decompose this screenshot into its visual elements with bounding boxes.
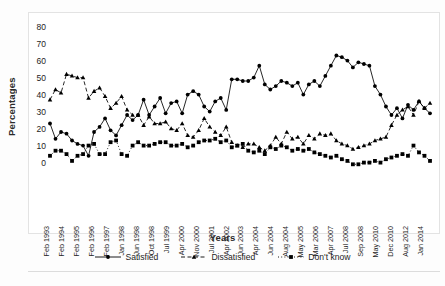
marker-circle	[401, 117, 405, 121]
marker-circle	[81, 144, 85, 148]
marker-square	[263, 152, 267, 156]
marker-square	[92, 142, 96, 146]
marker-square	[197, 140, 201, 144]
legend-item-dissatisfied[interactable]: Dissatisfied	[180, 252, 255, 262]
marker-square	[340, 157, 344, 161]
marker-square	[76, 154, 80, 158]
marker-square	[219, 140, 223, 144]
marker-circle	[87, 154, 91, 158]
marker-circle	[246, 79, 250, 83]
marker-circle	[197, 93, 201, 97]
marker-triangle	[108, 106, 113, 110]
marker-triangle	[367, 142, 372, 146]
marker-square	[246, 149, 250, 153]
marker-square	[252, 151, 256, 155]
marker-square	[87, 144, 91, 148]
marker-square	[213, 137, 217, 141]
marker-triangle	[196, 128, 201, 132]
marker-triangle	[318, 131, 323, 135]
marker-circle	[230, 77, 234, 81]
y-axis-label: Percentages	[2, 52, 20, 162]
marker-square	[230, 145, 234, 149]
marker-circle	[268, 88, 272, 92]
marker-triangle	[169, 126, 174, 130]
x-axis-label: Years	[0, 232, 445, 243]
marker-square	[208, 139, 212, 143]
marker-circle	[285, 81, 289, 85]
marker-square	[125, 154, 129, 158]
marker-circle	[191, 89, 195, 93]
marker-square	[334, 154, 338, 158]
marker-circle	[312, 79, 316, 83]
marker-square	[362, 161, 366, 165]
marker-triangle	[384, 135, 389, 139]
marker-circle	[263, 83, 267, 87]
marker-square	[417, 151, 421, 155]
legend-item-satisfied[interactable]: Satisfied	[94, 252, 158, 262]
marker-circle	[323, 74, 327, 78]
y-tick-20: 20	[24, 125, 46, 133]
marker-square	[357, 162, 361, 166]
marker-square	[428, 159, 432, 163]
marker-circle	[290, 84, 294, 88]
legend-item-don-t-know[interactable]: Don't know	[277, 252, 350, 262]
marker-square	[158, 140, 162, 144]
marker-circle	[158, 96, 162, 100]
marker-square	[390, 156, 394, 160]
marker-circle	[373, 84, 377, 88]
marker-circle	[252, 76, 256, 80]
marker-circle	[296, 81, 300, 85]
marker-square	[345, 159, 349, 163]
marker-square	[202, 139, 206, 143]
legend-swatch-triangle	[180, 252, 208, 262]
marker-square	[120, 152, 124, 156]
marker-circle	[384, 105, 388, 109]
marker-triangle	[307, 133, 312, 137]
marker-square	[191, 144, 195, 148]
marker-triangle	[351, 147, 356, 151]
marker-circle	[379, 93, 383, 97]
marker-circle	[109, 128, 113, 132]
marker-square	[395, 154, 399, 158]
marker-circle	[274, 84, 278, 88]
marker-triangle	[213, 130, 218, 134]
chart-legend: SatisfiedDissatisfiedDon't know	[0, 252, 445, 262]
marker-circle	[213, 100, 217, 104]
marker-circle	[362, 62, 366, 66]
marker-triangle	[329, 131, 334, 135]
marker-circle	[107, 255, 111, 259]
marker-circle	[224, 108, 228, 112]
marker-triangle	[163, 119, 168, 123]
marker-circle	[120, 123, 124, 127]
series-canvas	[47, 20, 433, 165]
marker-circle	[114, 134, 118, 138]
marker-circle	[395, 106, 399, 110]
marker-triangle	[389, 123, 394, 127]
y-tick-30: 30	[24, 108, 46, 116]
marker-circle	[257, 64, 261, 68]
marker-circle	[92, 130, 96, 134]
marker-triangle	[296, 135, 301, 139]
marker-circle	[186, 93, 190, 97]
marker-square	[289, 255, 293, 259]
y-tick-60: 60	[24, 57, 46, 65]
marker-triangle	[48, 97, 53, 101]
marker-circle	[208, 110, 212, 114]
marker-triangle	[97, 85, 102, 89]
percentages-line-chart: Percentages 01020304050607080 Feb 1993Fe…	[0, 0, 445, 286]
marker-square	[164, 140, 168, 144]
marker-square	[290, 149, 294, 153]
marker-square	[153, 142, 157, 146]
marker-circle	[142, 98, 146, 102]
marker-triangle	[224, 125, 229, 129]
marker-circle	[301, 93, 305, 97]
marker-circle	[175, 100, 179, 104]
marker-circle	[103, 117, 107, 121]
marker-triangle	[119, 94, 124, 98]
marker-circle	[412, 108, 416, 112]
marker-square	[114, 139, 118, 143]
marker-square	[109, 140, 113, 144]
marker-square	[180, 142, 184, 146]
marker-circle	[98, 125, 102, 129]
marker-circle	[76, 142, 80, 146]
